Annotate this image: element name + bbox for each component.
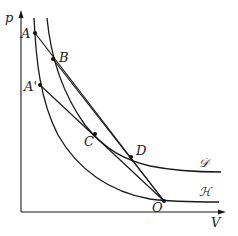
label-d: D xyxy=(135,143,147,158)
label-a-prime: A' xyxy=(23,79,37,94)
label-a: A xyxy=(20,26,30,41)
label-curve-h: ℋ xyxy=(199,185,213,199)
segment-b-o xyxy=(53,59,164,201)
point-d xyxy=(129,155,133,159)
curve-h xyxy=(34,18,219,202)
point-b xyxy=(51,57,55,61)
point-a-prime xyxy=(38,83,42,87)
v-axis-label: V xyxy=(211,215,222,230)
label-c: C xyxy=(84,134,94,149)
p-axis-label: p xyxy=(5,10,14,25)
label-curve-d: 𝒟 xyxy=(199,156,211,170)
label-b: B xyxy=(58,50,69,65)
label-o: O xyxy=(152,200,163,215)
v-axis-arrow-icon xyxy=(218,210,226,215)
curve-d xyxy=(47,18,221,172)
pv-diagram: p V A B A' C D O 𝒟 ℋ xyxy=(0,0,238,236)
point-a xyxy=(33,31,37,35)
p-axis-arrow-icon xyxy=(19,10,24,18)
